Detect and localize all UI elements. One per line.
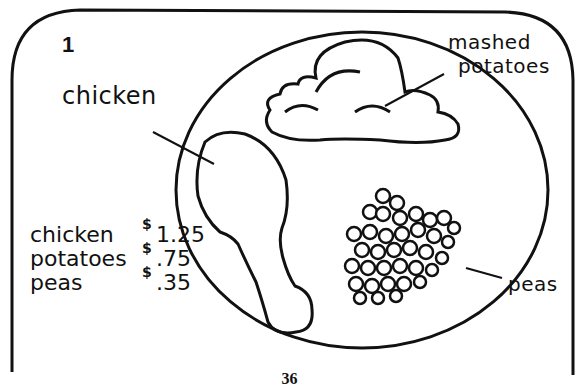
chicken-label: chicken xyxy=(62,82,157,110)
peas-pointer-line xyxy=(466,268,502,278)
chicken-pointer-line xyxy=(153,132,214,164)
mashed-potatoes-label: mashed potatoes xyxy=(448,30,550,78)
price-item-name: peas xyxy=(30,270,82,295)
dollar-sign: $ xyxy=(142,216,152,232)
dollar-sign: $ xyxy=(142,264,152,280)
chicken-drumstick-icon xyxy=(197,132,312,333)
mashed-potatoes-icon xyxy=(266,40,458,143)
dollar-sign: $ xyxy=(142,240,152,256)
workbook-page: 1 chicken mashed potatoes peas chicken $… xyxy=(0,0,579,392)
price-item-name: potatoes xyxy=(30,246,127,271)
price-amount: 1.25 xyxy=(156,222,205,247)
peas-label: peas xyxy=(508,272,558,296)
mashed-label-line1: mashed xyxy=(448,30,550,54)
peas-icon xyxy=(345,189,460,304)
price-item-name: chicken xyxy=(30,222,114,247)
price-amount: .35 xyxy=(156,270,191,295)
mashed-label-line2: potatoes xyxy=(448,54,550,78)
price-amount: .75 xyxy=(156,246,191,271)
problem-number: 1 xyxy=(62,32,74,58)
page-number: 36 xyxy=(0,370,579,388)
